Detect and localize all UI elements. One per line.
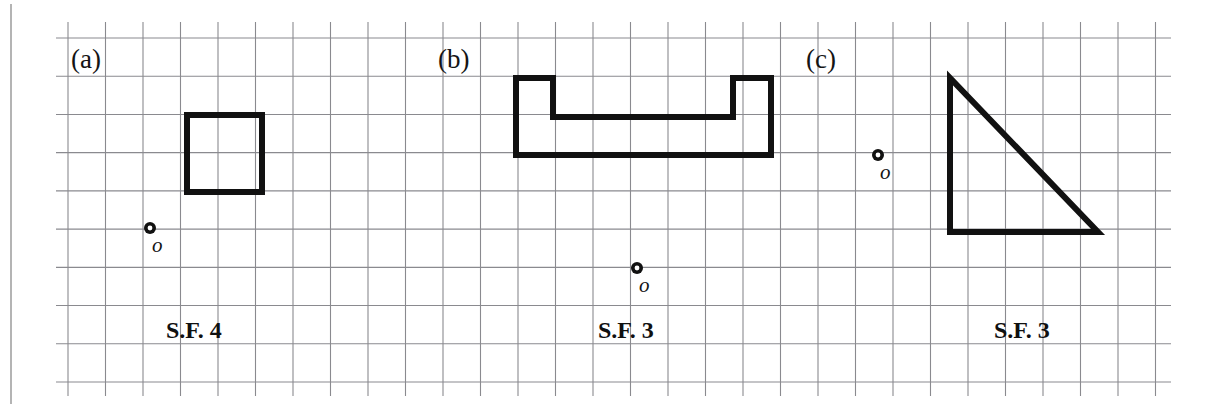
origin-marker-center-b xyxy=(635,266,640,271)
scale-factor-label-c: S.F. 3 xyxy=(994,318,1050,342)
enlargement-figure: (a) o S.F. 4 (b) o S.F. 3 (c) o S.F. 3 xyxy=(0,0,1213,410)
shape-u-shape-b xyxy=(516,78,771,155)
figure-canvas xyxy=(0,0,1213,410)
panel-label-a: (a) xyxy=(71,46,101,73)
scale-factor-label-a: S.F. 4 xyxy=(166,318,222,342)
origin-label-b: o xyxy=(639,275,650,296)
origin-marker-center-c xyxy=(876,153,881,158)
scale-factor-label-b: S.F. 3 xyxy=(598,318,654,342)
panel-label-c: (c) xyxy=(806,46,836,73)
shape-right-triangle-c xyxy=(950,78,1098,232)
origin-label-c: o xyxy=(880,162,891,183)
shapes-layer xyxy=(187,78,1098,232)
origin-label-a: o xyxy=(152,235,163,256)
shape-square-a xyxy=(187,115,262,192)
origin-marker-center-a xyxy=(148,226,153,231)
panel-label-b: (b) xyxy=(438,46,469,73)
